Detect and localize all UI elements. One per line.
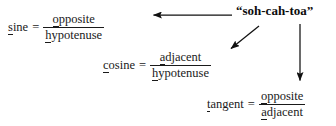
fraction-tangent: opposite adjacent (259, 90, 305, 118)
cosine-numerator-rest: djacent (165, 50, 201, 64)
trig-mnemonic-figure: sine = opposite hypotenuse cosine = adja… (0, 0, 336, 126)
equals-sign: = (247, 98, 259, 111)
tangent-denominator-rest: djacent (267, 105, 303, 119)
equation-tangent-label: tangent (207, 98, 247, 111)
sine-name-rest: ine (13, 20, 28, 34)
tangent-name-rest: angent (210, 97, 243, 111)
fraction-tangent-numerator: opposite (259, 90, 305, 104)
equation-cosine: cosine = adjacent hypotenuse (103, 51, 211, 79)
fraction-sine-numerator: opposite (51, 13, 97, 27)
fraction-sine-denominator: hypotenuse (43, 28, 104, 42)
equation-tangent: tangent = opposite adjacent (207, 90, 305, 118)
fraction-sine: opposite hypotenuse (43, 13, 104, 41)
fraction-cosine-numerator: adjacent (158, 51, 204, 65)
cosine-denominator-rest: ypotenuse (158, 66, 209, 80)
equation-sine: sine = opposite hypotenuse (8, 13, 104, 41)
equals-sign: = (31, 21, 43, 34)
fraction-tangent-denominator: adjacent (259, 105, 305, 119)
mnemonic-label: “soh-cah-toa” (236, 4, 313, 17)
sine-denominator-rest: ypotenuse (51, 28, 102, 42)
equation-cosine-label: cosine (103, 59, 138, 72)
equals-sign: = (138, 59, 150, 72)
fraction-cosine-denominator: hypotenuse (150, 66, 211, 80)
tangent-numerator-rest: pposite (267, 89, 303, 103)
arrow-to-cosine-icon (231, 26, 259, 49)
cosine-name-rest: osine (109, 58, 135, 72)
equation-sine-label: sine (8, 21, 31, 34)
fraction-cosine: adjacent hypotenuse (150, 51, 211, 79)
sine-numerator-rest: pposite (59, 12, 95, 26)
